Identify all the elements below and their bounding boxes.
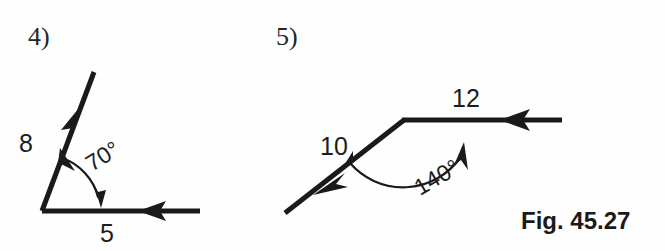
figure-svg: 4) 5 8 70° 5) [0, 0, 665, 251]
angle-70-label: 70° [81, 136, 124, 176]
problem-4-group: 4) 5 8 70° [19, 22, 200, 247]
problem-4-vector-8: 8 [19, 72, 94, 211]
angle-70-arrowhead-end-icon [93, 182, 106, 208]
vector-8-shaft [42, 72, 94, 211]
problem-4-number: 4) [28, 22, 50, 51]
problem-4-vector-5: 5 [42, 201, 200, 247]
problem-5-angle-arc: 140° [340, 142, 468, 200]
vector-8-magnitude-label: 8 [19, 129, 33, 157]
vector-10-magnitude-label: 10 [320, 132, 348, 160]
vector-5-magnitude-label: 5 [100, 219, 114, 247]
vector-12-magnitude-label: 12 [452, 84, 480, 112]
angle-140-label: 140° [410, 154, 464, 200]
figure-caption: Fig. 45.27 [521, 207, 630, 234]
problem-5-group: 5) 12 10 140° [276, 22, 562, 213]
figure-container: 4) 5 8 70° 5) [0, 0, 665, 251]
problem-5-vector-12: 12 [402, 84, 562, 131]
problem-5-number: 5) [276, 22, 298, 51]
